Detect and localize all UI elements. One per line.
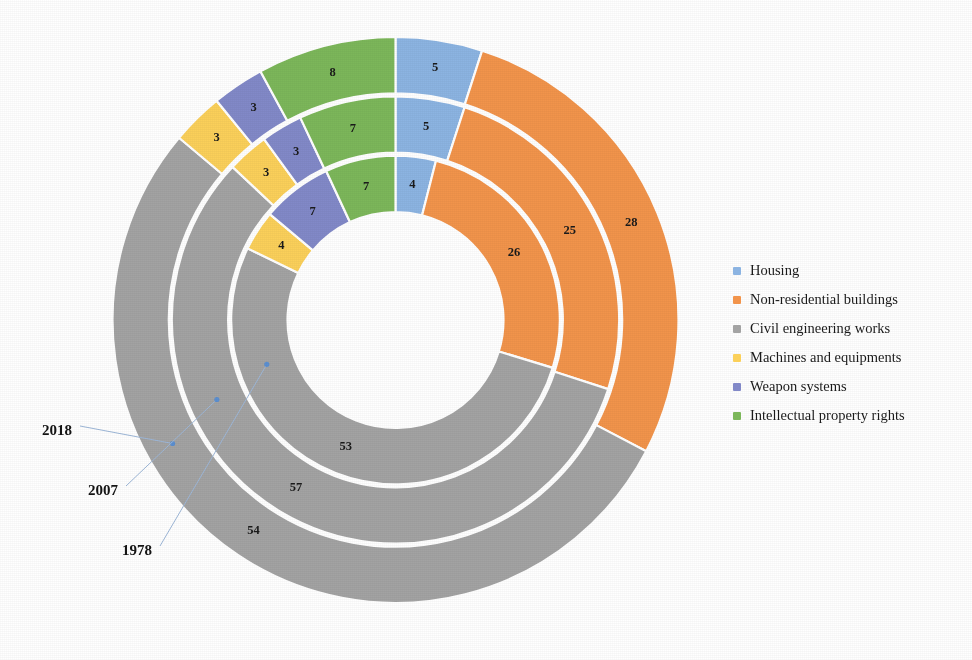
slice-value-label: 7 [310, 204, 316, 218]
slice-value-label: 25 [563, 223, 576, 237]
callout-anchor-dot-icon [264, 362, 269, 367]
slice-value-label: 57 [290, 480, 303, 494]
legend-swatch-icon [733, 354, 741, 362]
legend-swatch-icon [733, 383, 741, 391]
legend-item[interactable]: Non-residential buildings [733, 285, 958, 314]
legend-item[interactable]: Housing [733, 256, 958, 285]
legend-label: Intellectual property rights [750, 401, 905, 430]
legend-swatch-icon [733, 412, 741, 420]
legend-label: Civil engineering works [750, 314, 890, 343]
slice-value-label: 5 [423, 119, 429, 133]
legend-label: Non-residential buildings [750, 285, 898, 314]
legend-swatch-icon [733, 325, 741, 333]
slice-value-label: 4 [409, 177, 416, 191]
legend-swatch-icon [733, 267, 741, 275]
legend-item[interactable]: Civil engineering works [733, 314, 958, 343]
legend-item[interactable]: Machines and equipments [733, 343, 958, 372]
slice-value-label: 3 [293, 144, 299, 158]
slice-value-label: 3 [250, 100, 256, 114]
year-callout-label: 2018 [42, 422, 72, 438]
legend-item[interactable]: Intellectual property rights [733, 401, 958, 430]
slice-value-label: 54 [247, 523, 260, 537]
legend-label: Weapon systems [750, 372, 847, 401]
year-callout-label: 2007 [88, 482, 119, 498]
legend-item[interactable]: Weapon systems [733, 372, 958, 401]
legend-label: Housing [750, 256, 799, 285]
slice-group [113, 37, 679, 603]
slice-value-label: 53 [340, 439, 353, 453]
slice-value-label: 28 [625, 215, 638, 229]
legend-swatch-icon [733, 296, 741, 304]
slice-value-label: 26 [508, 245, 521, 259]
slice-value-label: 7 [350, 121, 356, 135]
slice-value-label: 3 [263, 165, 269, 179]
legend-label: Machines and equipments [750, 343, 901, 372]
slice-value-label: 3 [214, 130, 220, 144]
slice-value-label: 5 [432, 60, 438, 74]
chart-legend: HousingNon-residential buildingsCivil en… [733, 256, 958, 430]
year-callout-label: 1978 [122, 542, 152, 558]
slice-value-label: 8 [330, 65, 336, 79]
slice-value-label: 4 [278, 238, 285, 252]
sunburst-chart: 426534775255733752854338 201820071978 Ho… [0, 0, 972, 660]
slice-value-label: 7 [363, 179, 369, 193]
callout-anchor-dot-icon [214, 397, 219, 402]
